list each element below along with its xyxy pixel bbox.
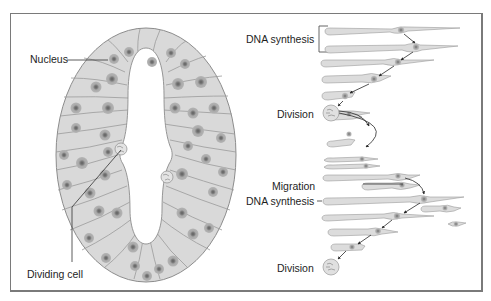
migration-sequence (317, 26, 466, 275)
division-label-2: Division (277, 262, 314, 274)
sequence-arrows (338, 34, 424, 259)
elongated-cells (321, 27, 466, 251)
dna-synthesis-label-2: DNA synthesis (246, 195, 314, 207)
division-label-1: Division (277, 108, 314, 120)
dna-synthesis-label-1: DNA synthesis (246, 33, 314, 45)
migration-label: Migration (272, 180, 315, 192)
neural-tube (56, 28, 236, 282)
nucleus-label: Nucleus (30, 53, 68, 65)
dividing-cell-label: Dividing cell (27, 268, 83, 280)
diagram-canvas (0, 0, 491, 301)
